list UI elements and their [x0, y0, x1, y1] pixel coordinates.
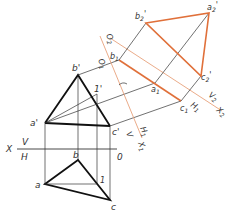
label-X1: X1 [135, 139, 148, 152]
x1-axis [100, 36, 142, 138]
label-a2-prime: a2' [207, 1, 218, 13]
line-a-prime-1-prime [45, 94, 97, 123]
projector-c-c1 [110, 101, 181, 126]
label-c: c [111, 202, 116, 211]
descriptive-geometry-diagram: b' a' c' 1' X V H 0 b a c 1 b1 a1 c1 b2'… [0, 0, 229, 211]
label-c1: c1 [180, 104, 188, 114]
label-O: 0 [117, 152, 123, 162]
front-view-base [45, 123, 110, 126]
projector-c1-c2 [181, 76, 201, 101]
label-a: a [35, 180, 41, 190]
label-O1: O1 [95, 57, 108, 70]
edge-view-b1-c1 [119, 60, 181, 101]
label-O2: O2 [103, 32, 116, 45]
label-b2-prime: b2' [135, 10, 146, 22]
label-b: b [73, 150, 79, 160]
label-H: H [21, 152, 28, 162]
label-c2-prime: c2' [201, 71, 211, 83]
projector-b1-b2 [119, 23, 146, 60]
front-view-triangle [45, 75, 110, 126]
projection-drawing: b' a' c' 1' X V H 0 b a c 1 b1 a1 c1 b2'… [0, 0, 229, 211]
label-b-prime: b' [72, 63, 80, 73]
label-c-prime: c' [112, 127, 119, 137]
true-shape-triangle [146, 13, 209, 76]
label-V-x1: V [124, 130, 135, 139]
label-a-prime: a' [30, 118, 38, 128]
label-b1: b1 [110, 52, 119, 62]
label-V: V [22, 137, 29, 147]
label-H1-right: H1 [188, 100, 202, 114]
label-1-prime: 1' [94, 84, 102, 94]
label-X: X [5, 144, 13, 154]
label-1: 1 [100, 176, 105, 185]
